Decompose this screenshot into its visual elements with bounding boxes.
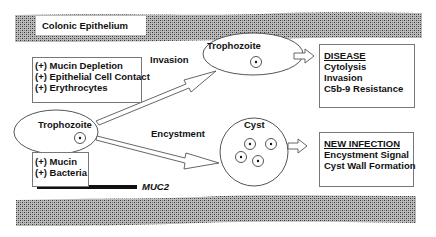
disease-item: C5b-9 Resistance <box>324 83 414 94</box>
new-infection-item: Cyst Wall Formation <box>324 160 413 171</box>
encystment-label: Encystment <box>151 128 205 139</box>
new-infection-arrow <box>288 139 307 153</box>
trigger-item: (+) Epithelial Cell Contact <box>35 71 141 82</box>
trigger-item: (+) Mucin <box>35 156 88 167</box>
disease-item: Cytolysis <box>324 61 414 72</box>
trigger-item: (+) Mucin Depletion <box>35 60 141 71</box>
bottom-epithelium-band <box>16 195 416 226</box>
trophozoite-start-label: Trophozoite <box>38 119 92 130</box>
trigger-item: (+) Bacteria <box>35 167 88 178</box>
epithelium-label: Colonic Epithelium <box>42 20 128 31</box>
invasion-label: Invasion <box>150 54 189 65</box>
trigger-item: (+) Erythrocytes <box>35 82 141 93</box>
diagram-canvas: Colonic Epithelium Invasion Encystment T… <box>0 0 436 237</box>
disease-item: Invasion <box>324 72 414 83</box>
muc2-label: MUC2 <box>142 181 169 192</box>
new-infection-box: NEW INFECTION Encystment Signal Cyst Wal… <box>319 132 414 187</box>
new-infection-item: Encystment Signal <box>324 149 413 160</box>
encystment-arrow <box>96 136 219 169</box>
encystment-triggers-box: (+) Mucin (+) Bacteria <box>32 152 89 187</box>
disease-title: DISEASE <box>324 50 414 61</box>
disease-box: DISEASE Cytolysis Invasion C5b-9 Resista… <box>319 44 415 108</box>
trophozoite-invasive-label: Trophozoite <box>207 40 261 51</box>
trophozoite-start-shape <box>14 110 98 154</box>
invasion-triggers-box: (+) Mucin Depletion (+) Epithelial Cell … <box>32 57 142 103</box>
new-infection-title: NEW INFECTION <box>324 138 413 149</box>
cyst-label: Cyst <box>244 119 265 130</box>
